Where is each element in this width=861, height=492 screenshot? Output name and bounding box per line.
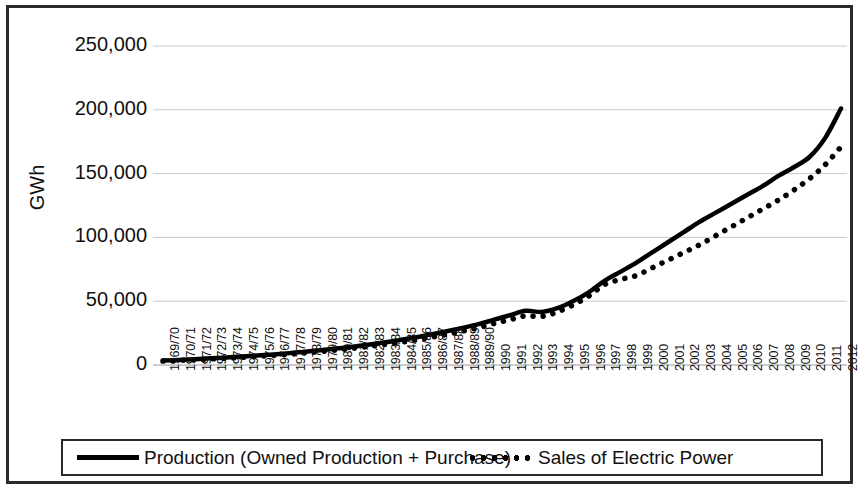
legend-item-sales[interactable]: Sales of Electric Power	[467, 441, 733, 474]
x-axis-tick-label: 2002	[688, 344, 702, 371]
x-axis-tick-label: 1983/84	[389, 327, 403, 371]
x-axis-tick-label: 2003	[704, 344, 718, 371]
x-axis-tick-label: 1984/85	[405, 327, 419, 371]
y-axis-tick-label: 200,000	[27, 97, 147, 120]
chart-canvas	[9, 8, 856, 487]
legend-label-production: Production (Owned Production + Purchase)	[144, 447, 511, 469]
x-axis-tick-label: 1988/89	[468, 327, 482, 371]
x-axis-tick-label: 1996	[594, 344, 608, 371]
x-axis-tick-label: 1976/77	[278, 327, 292, 371]
x-axis-tick-label: 1995	[578, 344, 592, 371]
x-axis-tick-label: 1975/76	[263, 327, 277, 371]
x-axis-tick-label: 1986/87	[436, 327, 450, 371]
y-axis-tick-label: 100,000	[27, 224, 147, 247]
x-axis-tick-label: 1987/88	[452, 327, 466, 371]
x-axis-tick-label: 1979/80	[326, 327, 340, 371]
x-axis-tick-label: 1993	[546, 344, 560, 371]
x-axis-tick-label: 1994	[562, 344, 576, 371]
y-axis-tick-label: 150,000	[27, 161, 147, 184]
legend-item-production[interactable]: Production (Owned Production + Purchase)	[77, 441, 511, 474]
x-axis-tick-label: 1990	[499, 344, 513, 371]
y-axis-tick-label: 250,000	[27, 33, 147, 56]
chart-legend: Production (Owned Production + Purchase)…	[61, 439, 823, 476]
legend-dotted-line-icon	[467, 455, 533, 461]
x-axis-tick-label: 1977/78	[294, 327, 308, 371]
x-axis-tick-label: 1992	[531, 344, 545, 371]
x-axis-tick-label: 2010	[814, 344, 828, 371]
x-axis-tick-label: 1972/73	[215, 327, 229, 371]
x-axis-tick-label: 2009	[799, 344, 813, 371]
x-axis-tick-label: 2004	[720, 344, 734, 371]
x-axis-tick-label: 2008	[783, 344, 797, 371]
x-axis-tick-label: 1971/72	[200, 327, 214, 371]
x-axis-tick-label: 2012	[846, 344, 860, 371]
x-axis-tick-label: 1969/70	[168, 327, 182, 371]
x-axis-tick-label: 2006	[751, 344, 765, 371]
legend-label-sales: Sales of Electric Power	[538, 447, 733, 469]
x-axis-tick-label: 1985/86	[420, 327, 434, 371]
y-axis-tick-label: 50,000	[27, 288, 147, 311]
chart-frame: GWh 050,000100,000150,000200,000250,0001…	[6, 5, 853, 484]
x-axis-tick-label: 2005	[736, 344, 750, 371]
x-axis-tick-label: 1978/79	[310, 327, 324, 371]
x-axis-tick-label: 1980/81	[341, 327, 355, 371]
x-axis-tick-label: 2007	[767, 344, 781, 371]
x-axis-tick-label: 1989/90	[483, 327, 497, 371]
x-axis-tick-label: 1999	[641, 344, 655, 371]
x-axis-tick-label: 2000	[657, 344, 671, 371]
x-axis-tick-label: 1973/74	[231, 327, 245, 371]
legend-solid-line-icon	[77, 455, 139, 460]
x-axis-tick-label: 1998	[625, 344, 639, 371]
x-axis-tick-label: 1997	[609, 344, 623, 371]
x-axis-tick-label: 1981/82	[357, 327, 371, 371]
x-axis-tick-label: 1974/75	[247, 327, 261, 371]
x-axis-tick-label: 1982/83	[373, 327, 387, 371]
plot-area: GWh 050,000100,000150,000200,000250,0001…	[9, 8, 850, 481]
x-axis-tick-label: 1991	[515, 344, 529, 371]
y-axis-tick-label: 0	[27, 352, 147, 375]
x-axis-tick-label: 2001	[673, 344, 687, 371]
y-axis-title: GWh	[26, 138, 49, 238]
x-axis-tick-label: 2011	[830, 345, 844, 371]
x-axis-tick-label: 1970/71	[184, 327, 198, 371]
